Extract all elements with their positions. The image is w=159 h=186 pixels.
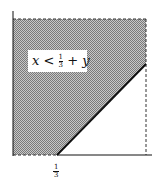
region-label: x < 1 3 + y [32,53,90,69]
shaded-region [13,19,146,155]
inequality-diagram [0,0,159,186]
x-tick-label: 1 3 [53,164,59,179]
